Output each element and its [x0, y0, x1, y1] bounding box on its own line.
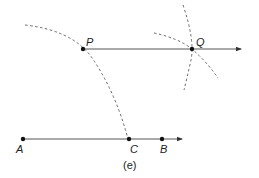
label-q: Q	[196, 36, 205, 48]
label-a: A	[15, 143, 23, 155]
label-c: C	[130, 143, 138, 155]
label-b: B	[160, 143, 167, 155]
arc-centered-a	[25, 25, 128, 139]
arc-near-q-diagonal	[154, 33, 218, 78]
label-p: P	[86, 36, 94, 48]
point-q	[190, 47, 194, 51]
point-p	[81, 47, 85, 51]
point-a	[21, 137, 25, 141]
figure-caption: (e)	[123, 159, 136, 171]
geometry-construction-diagram: P Q A C B (e)	[0, 0, 259, 178]
point-b	[160, 137, 164, 141]
point-c	[127, 137, 131, 141]
